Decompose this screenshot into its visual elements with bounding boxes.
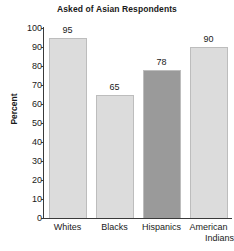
bar-chart: Asked of Asian Respondents Percent 10090…: [0, 0, 234, 251]
x-category-label-line: Indians: [181, 233, 234, 244]
y-tick-label: 40: [2, 138, 42, 147]
bar-value-label: 65: [96, 82, 134, 92]
y-tick-label: 80: [2, 62, 42, 71]
y-tick-label: 0: [2, 214, 42, 223]
plot-area: 95657890: [44, 28, 232, 218]
y-tick-label: 70: [2, 81, 42, 90]
y-tick-label: 50: [2, 119, 42, 128]
bar-value-label: 90: [190, 34, 228, 44]
y-tick-label: 60: [2, 100, 42, 109]
y-tick-label: 20: [2, 176, 42, 185]
x-category-label: AmericanIndians: [181, 222, 234, 244]
y-tick-label: 90: [2, 43, 42, 52]
bar-blacks: [96, 95, 134, 219]
bar-value-label: 78: [143, 57, 181, 67]
bar-hispanics: [143, 70, 181, 218]
bar-value-label: 95: [49, 25, 87, 35]
x-axis-line: [43, 218, 232, 219]
bar-american-indians: [190, 47, 228, 218]
y-tick-label: 100: [2, 24, 42, 33]
bar-whites: [49, 38, 87, 219]
y-axis-ticks: 1009080706050403020100: [0, 0, 42, 251]
y-tick-label: 30: [2, 157, 42, 166]
y-tick-label: 10: [2, 195, 42, 204]
x-category-label-line: American: [181, 222, 234, 233]
